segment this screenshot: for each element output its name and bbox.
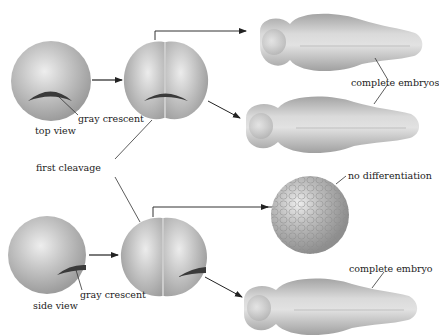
complete-embryo-2 (246, 97, 419, 153)
label-complete-embryos: complete embryos (351, 78, 439, 88)
label-gray-crescent-bottom: gray crescent (80, 290, 146, 300)
label-first-cleavage: first cleavage (36, 163, 101, 173)
zygote-top-view (11, 41, 91, 121)
label-top-view: top view (35, 126, 76, 136)
complete-embryo-3 (244, 279, 417, 335)
label-complete-embryo: complete embryo (349, 264, 433, 274)
two-cell-bottom (121, 218, 207, 296)
complete-embryo-1 (260, 14, 422, 71)
label-no-differentiation: no differentiation (348, 171, 432, 181)
zygote-side-view (8, 216, 86, 294)
label-gray-crescent-top: gray crescent (78, 114, 144, 124)
two-cell-top (124, 42, 208, 120)
label-side-view: side view (33, 301, 78, 311)
undifferentiated-ball (270, 175, 350, 255)
